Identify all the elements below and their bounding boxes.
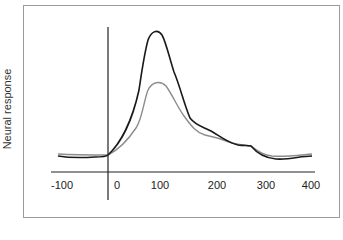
x-tick-label: 400 [302,179,320,191]
x-tick-label: 300 [257,179,275,191]
x-tick-label: -100 [51,179,73,191]
x-tick-label: 200 [208,179,226,191]
x-tick-label: 0 [114,179,120,191]
black-response-curve [58,31,312,159]
gray-response-curve [58,83,312,157]
x-tick-label: 100 [151,179,169,191]
